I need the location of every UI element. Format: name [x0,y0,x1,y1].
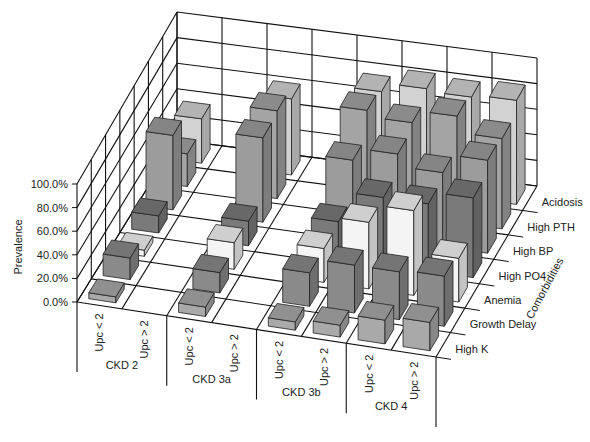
bar [268,304,304,331]
x-group-label: CKD 3b [282,386,321,398]
y-tick-label: 80.0% [37,202,68,214]
x-subcategory-label: Upc < 2 [183,327,195,365]
bar [403,304,439,351]
comorbidity-label: High BP [513,245,553,257]
bar [132,198,168,233]
x-subcategory-label: Upc > 2 [228,334,240,372]
bar [193,254,229,293]
bar [328,246,364,313]
x-subcategory-label: Upc > 2 [138,320,150,358]
chart-bars [89,70,525,351]
y-axis-title: Prevalence [12,219,24,274]
y-axis: 0.0%20.0%40.0%60.0%80.0%100.0% [31,178,77,308]
x-group-label: CKD 3a [192,373,231,385]
y-tick-label: 40.0% [37,249,68,261]
y-tick-label: 20.0% [37,272,68,284]
bar [103,240,139,280]
y-tick-label: 100.0% [31,178,69,190]
x-subcategory-label: Upc > 2 [408,362,420,400]
y-tick-label: 0.0% [43,296,68,308]
z-axis-title: Comorbidities [523,255,565,320]
x-subcategory-label: Upc < 2 [273,341,285,379]
x-subcategory-label: Upc > 2 [318,348,330,386]
comorbidity-label: High PO4 [499,270,547,282]
bar [89,279,125,303]
comorbidity-label: High PTH [527,221,575,233]
comorbidity-label: Acidosis [542,196,583,208]
x-subcategory-label: Upc < 2 [93,313,105,351]
chart-3d-bar: 0.0%20.0%40.0%60.0%80.0%100.0% High KGro… [0,0,590,442]
bar [146,117,182,210]
comorbidity-label: Anemia [484,294,522,306]
bar [313,307,349,337]
x-group-label: CKD 4 [375,400,407,412]
y-tick-label: 60.0% [37,225,68,237]
comorbidity-label: Growth Delay [470,318,537,330]
x-group-label: CKD 2 [106,359,138,371]
bar [358,302,394,344]
x-subcategory-label: Upc < 2 [363,355,375,393]
comorbidity-label: High K [455,343,489,355]
bar [283,254,319,306]
